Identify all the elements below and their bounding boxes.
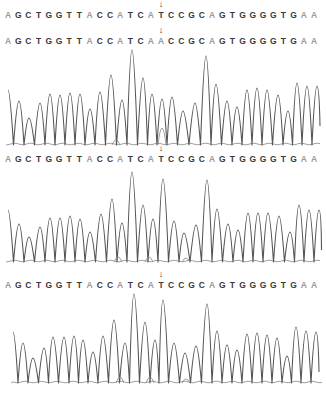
trace-line <box>13 294 319 383</box>
chromatogram-3 <box>0 0 326 394</box>
